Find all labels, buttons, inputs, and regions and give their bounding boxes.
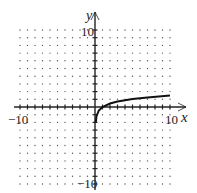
y-min-tick-label: −10 <box>77 177 97 190</box>
plot-area <box>0 0 197 193</box>
x-axis-label: x <box>181 110 188 125</box>
y-max-tick-label: 10 <box>81 25 94 38</box>
axes <box>14 12 186 190</box>
x-min-tick-label: −10 <box>8 113 28 126</box>
x-max-tick-label: 10 <box>165 113 178 126</box>
y-axis-label: y <box>86 9 92 23</box>
